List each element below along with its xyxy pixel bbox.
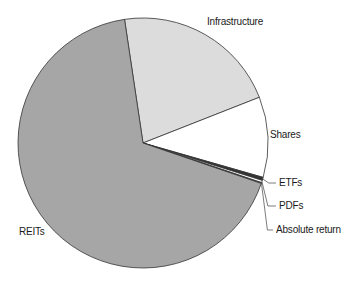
leader-line [261, 183, 273, 230]
label-reits: REITs [19, 226, 45, 237]
label-pdfs: PDFs [279, 200, 303, 211]
label-etfs: ETFs [279, 177, 302, 188]
label-shares: Shares [270, 129, 301, 140]
label-infrastructure: Infrastructure [207, 16, 263, 27]
pie-chart [0, 0, 352, 283]
leader-line [263, 179, 276, 183]
label-absolute-return: Absolute return [276, 224, 341, 235]
